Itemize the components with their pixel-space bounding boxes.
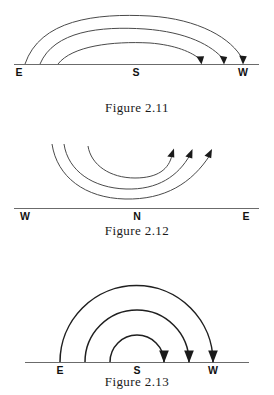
direction-label-south: S [133,364,140,374]
direction-label-east: E [242,210,249,222]
direction-label-west: W [238,66,248,78]
sun-path-arc-3 [110,335,164,362]
arrowhead-arc-1 [205,149,213,158]
sun-path-arc-3 [88,146,172,178]
direction-label-west: W [20,210,30,222]
arrowhead-arc-1 [239,55,247,64]
figure-2-11: E S W Figure 2.11 [0,0,274,130]
direction-label-east: E [15,66,22,78]
direction-label-west: W [208,364,218,374]
arrowhead-arc-2 [185,149,192,158]
figure-2-11-diagram: E S W [0,0,274,100]
figure-2-13-diagram: E S W [0,262,274,374]
direction-label-south: S [132,66,139,78]
direction-label-north: N [133,210,141,222]
figure-2-11-caption: Figure 2.11 [0,100,274,116]
arrowhead-arc-2 [220,56,228,65]
arrowhead-arc-3 [167,149,174,158]
arrowhead-arc-2 [184,351,194,364]
arrowhead-arc-3 [159,351,169,364]
arrowhead-arc-1 [208,351,218,364]
sun-path-arc-1 [25,15,243,64]
sun-path-arc-3 [58,43,201,64]
sun-path-arc-2 [64,144,190,189]
sun-path-arc-2 [40,28,224,64]
figure-2-12: W N E Figure 2.12 [0,125,274,250]
figure-2-13-caption: Figure 2.13 [0,374,274,390]
figure-2-12-caption: Figure 2.12 [0,223,274,239]
direction-label-east: E [56,364,63,374]
sun-path-arc-2 [85,310,189,362]
sun-path-arc-1 [52,144,210,199]
figure-2-12-diagram: W N E [0,125,274,223]
figure-2-13: E S W Figure 2.13 [0,262,274,395]
arrowhead-arc-3 [196,56,204,64]
